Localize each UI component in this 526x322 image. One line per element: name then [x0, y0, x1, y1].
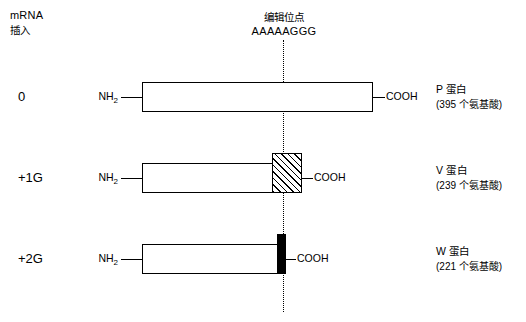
protein-name-v: V 蛋白: [436, 163, 502, 178]
protein-annotation-w: W 蛋白 (221 个氨基酸): [436, 244, 502, 274]
mrna-label-line2: 插入: [10, 23, 43, 38]
n-terminus-label-row1: NH2: [80, 171, 118, 186]
c-terminus-tick-row0: [373, 97, 385, 98]
protein-name-w: W 蛋白: [436, 244, 502, 259]
protein-annotation-p: P 蛋白 (395 个氨基酸): [436, 82, 502, 112]
c-terminus-tick-row1: [302, 178, 313, 179]
protein-annotation-v: V 蛋白 (239 个氨基酸): [436, 163, 502, 193]
n-terminus-label-row2: NH2: [80, 252, 118, 267]
mrna-label-line1: mRNA: [10, 8, 43, 23]
protein-segment-hatched-v: [272, 153, 302, 193]
edit-site-sequence: AAAAAGGG: [214, 24, 354, 38]
protein-bar-v: [142, 163, 273, 193]
mrna-insertion-label: mRNA 插入: [10, 8, 43, 38]
row-insertion-label-1g: +1G: [18, 170, 43, 185]
edit-site-label: 编辑位点 AAAAAGGG: [214, 10, 354, 38]
c-terminus-label-row1: COOH: [314, 171, 346, 183]
row-insertion-label-0: 0: [18, 89, 25, 104]
row-insertion-label-2g: +2G: [18, 251, 43, 266]
protein-segment-solid-w: [277, 234, 286, 274]
c-terminus-tick-row2: [286, 259, 296, 260]
c-terminus-label-row2: COOH: [297, 252, 329, 264]
n-terminus-tick-row1: [121, 178, 142, 179]
protein-length-w: (221 个氨基酸): [436, 259, 502, 274]
protein-bar-p: [142, 82, 373, 112]
protein-length-p: (395 个氨基酸): [436, 97, 502, 112]
c-terminus-label-row0: COOH: [386, 90, 418, 102]
protein-length-v: (239 个氨基酸): [436, 178, 502, 193]
n-terminus-tick-row0: [121, 97, 142, 98]
diagram-canvas: mRNA 插入 编辑位点 AAAAAGGG 0 NH2 COOH P 蛋白 (3…: [0, 0, 526, 322]
protein-bar-w: [142, 244, 278, 274]
edit-site-title: 编辑位点: [214, 10, 354, 24]
n-terminus-tick-row2: [121, 259, 142, 260]
n-terminus-label-row0: NH2: [80, 90, 118, 105]
protein-name-p: P 蛋白: [436, 82, 502, 97]
